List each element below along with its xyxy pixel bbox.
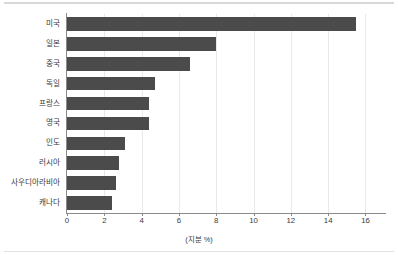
x-tick-label-12: 12 [287,216,296,225]
bar-row [67,137,386,151]
bar-사우디아라비아 [67,176,116,190]
bar-러시아 [67,156,119,170]
x-tick-label-8: 8 [214,216,218,225]
x-tick-label-6: 6 [177,216,181,225]
x-tick-label-14: 14 [324,216,333,225]
bar-row [67,156,386,170]
y-axis-labels: 미국일본중국독일프랑스영국인도러시아사우디아라비아캐나다 [0,14,62,213]
x-tick-label-4: 4 [139,216,143,225]
bar-캐나다 [67,196,112,210]
x-tick-label-0: 0 [65,216,69,225]
y-tick-label-캐나다: 캐나다 [39,199,60,207]
bar-미국 [67,17,356,31]
bar-row [67,77,386,91]
bar-row [67,37,386,51]
x-axis-title: (지분 %) [0,233,398,244]
plot-area [67,14,386,213]
x-tick-label-2: 2 [102,216,106,225]
y-tick-label-일본: 일본 [46,40,60,48]
y-axis-spine [66,13,67,214]
x-axis-spine [66,213,386,214]
bar-프랑스 [67,97,149,111]
y-tick-label-중국: 중국 [46,60,60,68]
x-axis-tick-labels: 0246810121416 [67,216,386,230]
y-tick-label-프랑스: 프랑스 [39,100,60,108]
y-tick-label-미국: 미국 [46,20,60,28]
bar-독일 [67,77,155,91]
y-tick-label-독일: 독일 [46,80,60,88]
bar-중국 [67,57,190,71]
bar-row [67,196,386,210]
y-tick-label-인도: 인도 [46,139,60,147]
bar-인도 [67,137,125,151]
y-tick-label-러시아: 러시아 [39,159,60,167]
bar-일본 [67,37,216,51]
bar-chart-figure: 미국일본중국독일프랑스영국인도러시아사우디아라비아캐나다 02468101214… [0,0,398,255]
x-tick-label-16: 16 [361,216,370,225]
x-tick-label-10: 10 [249,216,258,225]
bar-row [67,176,386,190]
bottom-divider [4,251,394,252]
bar-row [67,17,386,31]
bar-row [67,117,386,131]
top-divider [4,2,394,4]
bar-영국 [67,117,149,131]
y-tick-label-사우디아라비아: 사우디아라비아 [11,179,60,187]
y-tick-label-영국: 영국 [46,119,60,127]
bar-row [67,97,386,111]
bar-row [67,57,386,71]
